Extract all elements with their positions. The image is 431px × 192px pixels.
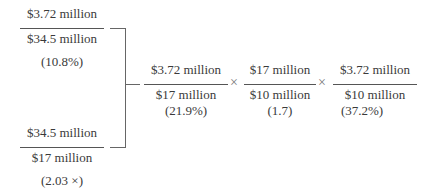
bracket-bottom-arm (110, 147, 125, 148)
roe-denominator: $10 million (333, 87, 417, 103)
multiply-sign-1: × (230, 75, 238, 91)
equity-multiplier-value: (2.03 ×) (20, 173, 104, 189)
profit-margin-fraction-bar (20, 28, 104, 29)
bracket-connector (125, 84, 140, 85)
roa-fraction-bar (144, 84, 228, 85)
equity-multiplier-numerator: $34.5 million (20, 125, 104, 141)
bracket-top-arm (110, 28, 125, 29)
asset-ratio-denominator: $10 million (244, 87, 316, 103)
bracket-spine (125, 28, 126, 148)
roa-denominator: $17 million (144, 87, 228, 103)
roa-value: (21.9%) (144, 103, 228, 119)
profit-margin-denominator: $34.5 million (20, 31, 104, 47)
roa-numerator: $3.72 million (144, 62, 228, 78)
equity-multiplier-denominator: $17 million (20, 150, 104, 166)
equity-multiplier-fraction-bar (20, 147, 104, 148)
roe-numerator: $3.72 million (333, 62, 417, 78)
profit-margin-value: (10.8%) (20, 54, 104, 70)
profit-margin-numerator: $3.72 million (20, 6, 104, 22)
asset-ratio-numerator: $17 million (244, 62, 316, 78)
asset-ratio-value: (1.7) (244, 103, 316, 119)
roe-fraction-bar (333, 84, 417, 85)
asset-ratio-fraction-bar (244, 84, 316, 85)
roe-value: (37.2%) (320, 103, 404, 119)
multiply-sign-2: × (318, 75, 326, 91)
